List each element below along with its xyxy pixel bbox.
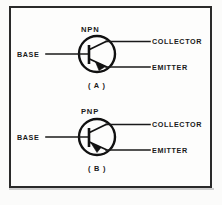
pnp-collector-junction — [90, 124, 108, 133]
npn-type-label: NPN — [81, 25, 99, 34]
npn-emitter-label: EMITTER — [152, 63, 188, 72]
transistor-symbols-diagram: NPN BASE COLLECTOR EMITTER ( A ) — [0, 0, 222, 205]
npn-collector-label: COLLECTOR — [152, 37, 202, 46]
pnp-emitter-label: EMITTER — [152, 146, 188, 155]
pnp-type-label: PNP — [81, 107, 99, 116]
npn-sub-label: ( A ) — [88, 81, 106, 90]
figure-root: NPN BASE COLLECTOR EMITTER ( A ) — [0, 0, 222, 205]
pnp-collector-label: COLLECTOR — [152, 120, 202, 129]
npn-base-label: BASE — [17, 50, 39, 59]
npn-symbol-group: NPN BASE COLLECTOR EMITTER ( A ) — [17, 25, 202, 90]
pnp-symbol-group: PNP BASE COLLECTOR EMITTER ( B ) — [17, 107, 202, 173]
pnp-sub-label: ( B ) — [88, 164, 106, 173]
pnp-base-label: BASE — [17, 133, 39, 142]
npn-collector-junction — [90, 41, 108, 50]
